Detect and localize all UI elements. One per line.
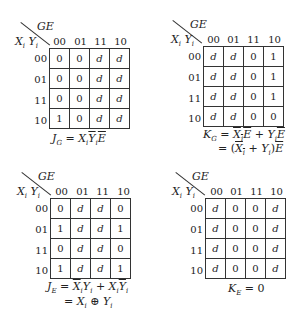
kmap-cell: 0 [70,109,90,129]
row-label: 11 [185,245,203,256]
row-label: 00 [29,53,47,64]
kmap-cell: d [266,219,286,239]
equation-je-line1: JE = XiYi + XiYi [47,280,128,295]
kmap-cell: d [91,259,111,279]
col-label: 11 [92,186,113,197]
kmap-cell: d [110,49,130,69]
kmap-row: dd01 [204,87,284,107]
row-variable-label: Xi Yi [17,185,40,200]
kmap-row: dd00 [204,107,284,127]
kmap-cell: 0 [244,47,264,67]
kmap-row: 00dd [50,89,130,109]
kmap-cell: d [71,219,91,239]
kmap-cell: d [71,199,91,219]
kmap-cell: d [224,107,244,127]
col-label: 11 [243,34,264,45]
kmap-cell: 0 [244,87,264,107]
kmap-grid: dd01dd01dd01dd00 [203,46,284,127]
kmap-cell: d [206,239,226,259]
kmap-jg: GE Xi Yi 00 01 11 10 00 01 11 10 00dd00d… [0,0,151,160]
row-label: 10 [30,265,48,276]
row-variable-label: Xi Yi [171,33,194,48]
kmap-cell: 1 [264,47,284,67]
kmap-cell: 0 [244,67,264,87]
kmap-cell: 0 [226,199,246,219]
kmap-row: dd01 [204,47,284,67]
row-variable-label: Xi Yi [15,35,38,50]
row-label: 00 [30,203,48,214]
column-variable-label: GE [37,20,54,33]
kmap-cell: 0 [51,199,71,219]
kmap-je: GE Xi Yi 00 01 11 10 00 01 11 10 0dd01dd… [0,160,151,320]
col-label: 10 [113,186,134,197]
col-label: 01 [70,36,91,47]
equation-kg-line2: = (Xi + Yi)E [218,142,283,157]
kmap-cell: d [90,69,110,89]
row-label: 00 [185,203,203,214]
kmap-cell: 0 [70,89,90,109]
kmap-cell: 0 [246,219,266,239]
kmap-cell: d [90,89,110,109]
kmap-cell: 0 [111,199,131,219]
kmap-cell: 0 [50,69,70,89]
col-label: 11 [90,36,111,47]
kmap-cell: 0 [246,239,266,259]
row-label: 00 [183,51,201,62]
column-variable-label: GE [192,170,209,183]
col-label: 10 [266,186,287,197]
kmap-row: d00d [206,219,286,239]
row-variable-label: Xi Yi [172,185,195,200]
col-label: 00 [206,186,227,197]
kmap-cell: d [91,219,111,239]
kmap-cell: d [224,87,244,107]
row-label: 10 [183,113,201,124]
equation-je-line2: = Xi ⊕ Yi [64,295,113,310]
row-label: 10 [185,265,203,276]
kmap-grid: 00dd00dd00dd10dd [49,48,130,129]
kmap-cell: d [204,107,224,127]
column-variable-label: GE [38,170,55,183]
kmap-grid: d00dd00dd00dd00d [205,198,286,279]
kmap-cell: 0 [50,49,70,69]
kmap-cell: 1 [264,67,284,87]
kmap-cell: 0 [226,259,246,279]
row-label: 01 [29,74,47,85]
kmap-cell: 1 [51,219,71,239]
kmap-cell: d [206,219,226,239]
kmap-row: 0dd0 [51,199,131,219]
col-label: 01 [72,186,93,197]
kmap-row: 10dd [50,109,130,129]
row-label: 01 [30,224,48,235]
kmap-cell: d [91,199,111,219]
row-label: 10 [29,115,47,126]
kmap-row: d00d [206,199,286,219]
kmap-cell: 0 [246,199,266,219]
kmap-cell: 0 [111,239,131,259]
kmap-row: 1dd1 [51,219,131,239]
kmap-cell: d [71,259,91,279]
column-variable-label: GE [190,18,207,31]
kmap-cell: 0 [226,219,246,239]
equation-kg-line1: KG = XiE + YiE [203,128,285,143]
kmap-cell: 0 [50,89,70,109]
kmap-row: 0dd0 [51,239,131,259]
kmap-cell: 0 [264,107,284,127]
equation-ke: KE = 0 [228,282,265,297]
kmap-cell: d [90,49,110,69]
kmap-cell: d [91,239,111,259]
kmap-cell: 1 [50,109,70,129]
kmap-row: 1dd1 [51,259,131,279]
kmap-cell: d [204,67,224,87]
row-label: 01 [185,224,203,235]
kmap-row: 00dd [50,49,130,69]
col-label: 10 [110,36,131,47]
col-label: 01 [226,186,247,197]
kmap-cell: 0 [70,69,90,89]
col-label: 01 [223,34,244,45]
kmap-row: d00d [206,239,286,259]
kmap-cell: d [266,239,286,259]
kmap-cell: 0 [70,49,90,69]
kmap-cell: d [90,109,110,129]
kmap-cell: 1 [111,259,131,279]
kmap-cell: d [110,69,130,89]
